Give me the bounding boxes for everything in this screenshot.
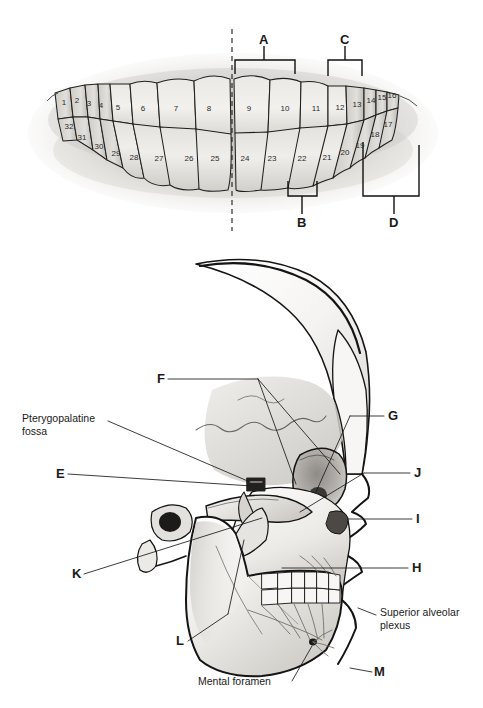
leader-E — [68, 474, 252, 486]
skull-label-f: F — [157, 372, 165, 387]
tooth-number: 6 — [141, 104, 145, 113]
skull-label-superior-alveolar-plexus-line1: Superior alveolar — [380, 606, 459, 618]
leader-superior-alveolar — [358, 608, 376, 615]
pterygopalatine-fossa-marker — [247, 478, 265, 491]
tooth-number: 19 — [356, 141, 365, 150]
upper-teeth-row — [262, 572, 340, 590]
skull-label-g: G — [388, 409, 398, 424]
tooth-number: 28 — [130, 153, 139, 162]
skull-label-j: J — [414, 466, 421, 481]
tooth-number: 29 — [112, 149, 121, 158]
skull-label-m: M — [374, 665, 385, 680]
tooth-number: 16 — [388, 91, 397, 100]
tooth-number: 15 — [378, 93, 387, 102]
teeth-diagram — [0, 0, 483, 708]
tooth-number: 24 — [241, 154, 250, 163]
tooth-number: 30 — [95, 142, 104, 151]
tooth-number: 9 — [247, 104, 251, 113]
tooth-number: 7 — [174, 104, 178, 113]
tooth-number: 8 — [207, 104, 211, 113]
skull-label-superior-alveolar-plexus-line2: plexus — [380, 619, 410, 631]
skull-label-i: I — [416, 512, 420, 527]
lateral-skull-illustration — [68, 259, 412, 681]
nasal-aperture — [326, 511, 348, 534]
tooth-number: 17 — [384, 120, 393, 129]
tooth-number: 5 — [116, 103, 120, 112]
tooth-number: 31 — [78, 133, 87, 142]
tooth-number: 11 — [312, 104, 320, 113]
tooth-number: 3 — [87, 99, 91, 108]
tooth-number: 26 — [185, 154, 194, 163]
bracket-label-c: C — [340, 33, 350, 48]
skull-label-l: L — [176, 634, 184, 649]
skull-label-pterygopalatine-fossa-line2: fossa — [22, 425, 47, 437]
bracket-label-a: A — [259, 33, 269, 48]
external-auditory-meatus — [159, 512, 181, 532]
skull-label-h: H — [412, 561, 422, 576]
bracket-label-d: D — [389, 216, 399, 231]
tooth-number: 10 — [281, 104, 290, 113]
skull-label-e: E — [56, 467, 65, 482]
bracket-label-b: B — [297, 216, 307, 231]
lower-teeth-row — [262, 588, 340, 605]
skull-label-k: K — [72, 567, 82, 582]
tooth-number: 23 — [268, 154, 277, 163]
tooth-number: 32 — [65, 122, 74, 131]
skull-label-mental-foramen: Mental foramen — [198, 675, 271, 687]
tooth-number: 21 — [323, 153, 332, 162]
tooth-number: 1 — [62, 98, 66, 107]
tooth-number: 25 — [211, 154, 220, 163]
tooth-number: 4 — [99, 101, 103, 110]
tooth-number: 18 — [371, 130, 380, 139]
skull-label-pterygopalatine-fossa-line1: Pterygopalatine — [22, 412, 95, 424]
tooth-number: 2 — [75, 96, 79, 105]
leader-M — [350, 668, 372, 672]
tooth-number: 22 — [298, 154, 307, 163]
tooth-number: 14 — [367, 96, 376, 105]
tooth-number: 12 — [336, 103, 345, 112]
tooth-number: 27 — [155, 154, 164, 163]
tooth-number: 20 — [341, 148, 350, 157]
tooth-number: 13 — [353, 100, 362, 109]
figure-page: 1 2 3 4 5 6 7 8 9 10 11 12 13 14 15 16 3… — [0, 0, 483, 708]
